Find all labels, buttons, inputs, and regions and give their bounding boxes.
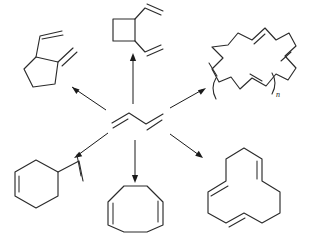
arrow-to-vinylcyclohexene bbox=[74, 133, 108, 158]
arrow-to-cyclododecatriene bbox=[170, 134, 203, 158]
structure-cyclododecatriene bbox=[208, 148, 280, 227]
arrow-to-divinylcyclobutane bbox=[130, 53, 136, 104]
structure-vinyl-methylenecyclopentane bbox=[24, 31, 77, 87]
structure-vinylcyclohexene bbox=[15, 155, 83, 208]
reaction-scheme-canvas: 1,3-Butadiene reaction / oligomerization… bbox=[0, 0, 319, 237]
structure-divinylcyclobutane bbox=[113, 4, 163, 56]
arrow-to-vinylmethylenecyclopentane bbox=[72, 87, 106, 110]
arrow-to-cyclooctadiene bbox=[132, 140, 138, 183]
structure-cyclooctadiene bbox=[108, 186, 163, 232]
scheme-svg: n bbox=[0, 0, 319, 237]
structure-polybutadiene: n bbox=[209, 28, 296, 99]
structure-butadiene-center bbox=[112, 113, 163, 130]
repeat-unit-n-label: n bbox=[276, 90, 280, 99]
arrow-to-polybutadiene bbox=[170, 88, 206, 108]
